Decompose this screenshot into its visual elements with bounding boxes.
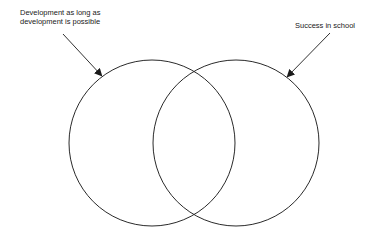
- left-pointer-arrow: [63, 34, 101, 75]
- right-set-circle: [153, 60, 319, 226]
- venn-diagram: [0, 0, 374, 239]
- left-set-circle: [69, 60, 235, 226]
- right-pointer-arrow: [288, 33, 330, 76]
